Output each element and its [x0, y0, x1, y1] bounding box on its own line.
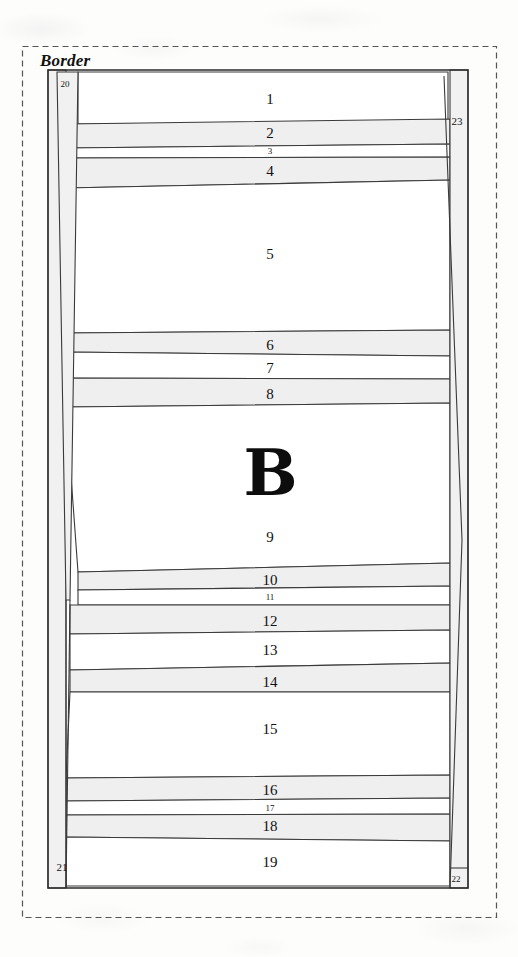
band-label-1: 1 [266, 91, 274, 108]
edge-strip-label-21: 21 [57, 861, 68, 873]
edge-strip-23-shape [450, 70, 468, 888]
band-label-11: 11 [266, 592, 275, 602]
band-label-4: 4 [266, 163, 274, 180]
section-letter-label: B [243, 435, 296, 510]
band-label-7: 7 [266, 360, 274, 377]
band-label-17: 17 [266, 803, 275, 813]
band-12-shape [70, 605, 450, 634]
band-label-10: 10 [263, 572, 278, 589]
band-11-shape [78, 586, 450, 605]
band-8-shape [66, 378, 450, 407]
band-label-8: 8 [266, 386, 274, 403]
band-label-13: 13 [263, 642, 278, 659]
band-label-18: 18 [263, 818, 278, 835]
band-7-shape [66, 352, 450, 379]
band-label-6: 6 [266, 337, 274, 354]
edge-strip-label-23: 23 [452, 115, 463, 127]
edge-strip-label-20: 20 [61, 79, 70, 89]
band-label-16: 16 [263, 782, 278, 799]
band-1-shape [78, 72, 448, 124]
band-label-14: 14 [263, 674, 278, 691]
band-5-shape [66, 180, 450, 333]
band-2-shape [66, 119, 450, 148]
stratigraphic-section-figure: Border B 1 2 3 4 5 6 7 8 9 10 11 12 13 1… [0, 0, 518, 957]
band-17-shape [66, 798, 450, 815]
edge-strip-label-22: 22 [452, 874, 461, 884]
figure-title: Border [40, 51, 90, 71]
band-label-5: 5 [266, 246, 274, 263]
band-15-shape [66, 692, 450, 778]
band-18-shape [66, 814, 450, 841]
band-16-shape [66, 775, 450, 801]
band-19-shape [66, 837, 450, 886]
band-label-2: 2 [266, 125, 274, 142]
band-label-15: 15 [263, 721, 278, 738]
band-label-12: 12 [263, 613, 278, 630]
band-label-19: 19 [263, 854, 278, 871]
band-label-3: 3 [268, 146, 273, 156]
band-label-9: 9 [266, 529, 274, 546]
